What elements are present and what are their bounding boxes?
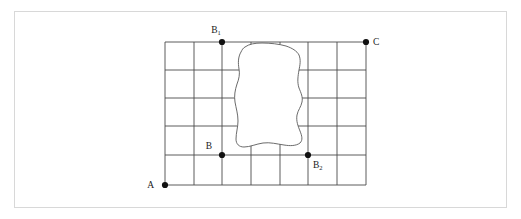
point-marker-b1 bbox=[219, 39, 225, 45]
point-label-b1: B1 bbox=[211, 25, 221, 36]
point-label-b: B bbox=[206, 141, 212, 151]
geometry-diagram: AB1BB2C bbox=[0, 0, 521, 219]
point-marker-b bbox=[219, 152, 225, 158]
point-marker-a bbox=[162, 182, 168, 188]
irregular-region-outline bbox=[235, 43, 303, 147]
point-label-c: C bbox=[373, 37, 379, 47]
point-label-b2: B2 bbox=[313, 160, 323, 171]
point-marker-b2 bbox=[305, 152, 311, 158]
figure-container: AB1BB2C bbox=[0, 0, 521, 219]
point-marker-c bbox=[363, 39, 369, 45]
point-label-a: A bbox=[147, 180, 154, 190]
